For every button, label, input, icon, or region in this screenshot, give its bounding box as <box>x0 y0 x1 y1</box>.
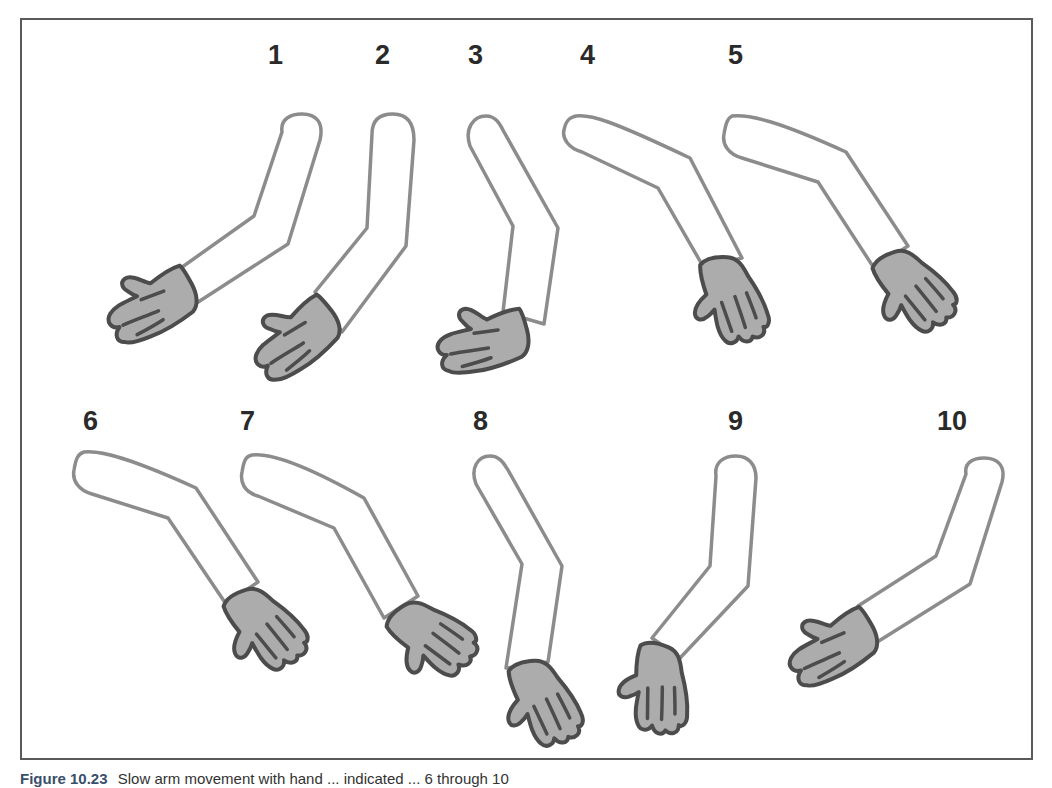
arm-frame-9 <box>612 456 756 738</box>
figure-caption-text: Slow arm movement with hand ... indicate… <box>118 770 509 787</box>
arm-frame-10 <box>775 458 1003 695</box>
arm-frame-8 <box>474 456 587 754</box>
arm-frame-3 <box>430 116 558 380</box>
figure-caption: Figure 10.23 Slow arm movement with hand… <box>20 770 509 788</box>
figure-caption-label: Figure 10.23 <box>20 770 108 787</box>
